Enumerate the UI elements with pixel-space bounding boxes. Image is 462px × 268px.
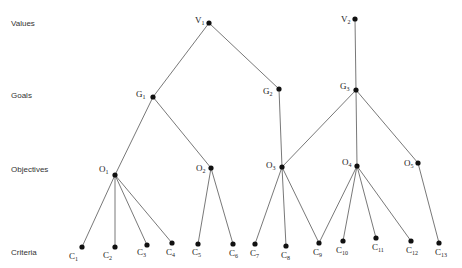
node-label: C11 [372,242,384,253]
node-label: V1 [195,15,205,26]
node-label: C4 [166,247,175,258]
node-label: C9 [313,247,322,258]
node-label: O5 [404,158,414,169]
node-label: O3 [266,160,276,171]
node-o1: O1 [99,164,118,178]
node-c9: C9 [313,240,322,258]
edge-v1-g2 [209,23,279,89]
edge-g1-o1 [115,97,153,175]
node-label: G1 [136,89,146,100]
node-dot-icon [340,238,345,243]
node-dot-icon [352,16,357,21]
edge-o3-c7 [255,167,282,244]
edge-v2-g3 [355,19,356,90]
edge-o3-c8 [282,167,286,246]
edge-o2-c5 [198,168,211,244]
node-dot-icon [112,244,117,249]
node-label: V2 [341,14,351,25]
edge-g3-o5 [356,90,418,163]
node-c2: C2 [103,244,118,261]
node-c10: C10 [336,238,348,256]
node-label: C1 [69,251,78,262]
edge-o2-c6 [211,168,233,244]
node-label: C7 [250,248,259,259]
node-dot-icon [208,165,213,170]
node-dot-icon [354,163,359,168]
node-dot-icon [279,164,284,169]
node-o2: O2 [196,163,214,174]
edge-g2-o3 [279,89,282,167]
level-label-goals: Goals [11,91,32,100]
edge-g3-o3 [282,90,356,167]
node-c7: C7 [250,241,259,259]
level-label-values: Values [11,19,35,28]
node-dot-icon [415,160,420,165]
node-c3: C3 [137,242,150,258]
node-g1: G1 [136,89,156,100]
node-c4: C4 [166,240,175,258]
node-c8: C8 [281,243,290,261]
node-c13: C13 [435,240,447,258]
edge-o4-c11 [357,166,376,238]
level-label-objectives: Objectives [11,165,48,174]
edge-g3-o4 [356,90,357,166]
node-label: G2 [263,86,273,97]
node-dot-icon [150,94,155,99]
edge-o1-c3 [115,175,147,245]
edge-v1-g1 [153,23,209,97]
node-dot-icon [144,242,149,247]
edge-g1-o2 [153,97,211,168]
edge-o4-c12 [357,166,411,241]
node-c1: C1 [69,244,85,262]
edge-o4-c10 [343,166,357,241]
node-label: C5 [192,247,201,258]
hierarchy-diagram: V1V2G1G2G3O1O2O3O4O5C1C2C3C4C5C6C7C8C9C1… [0,0,462,268]
node-label: C2 [103,250,112,261]
node-dot-icon [112,172,117,177]
level-labels-group: ValuesGoalsObjectivesCriteria [11,19,48,257]
node-dot-icon [353,87,358,92]
node-dot-icon [195,241,200,246]
edge-o3-c9 [282,167,319,243]
node-c6: C6 [229,241,238,259]
node-dot-icon [169,240,174,245]
node-c5: C5 [192,241,201,258]
node-dot-icon [79,244,84,249]
nodes-group: V1V2G1G2G3O1O2O3O4O5C1C2C3C4C5C6C7C8C9C1… [69,14,447,262]
node-dot-icon [252,241,257,246]
node-dot-icon [276,86,281,91]
node-label: C12 [406,245,418,256]
node-dot-icon [206,20,211,25]
node-dot-icon [230,241,235,246]
node-o5: O5 [404,158,421,169]
node-v1: V1 [195,15,212,26]
node-label: C6 [229,248,238,259]
node-label: O4 [342,157,352,168]
node-g2: G2 [263,86,282,97]
node-label: C10 [336,245,348,256]
node-label: C13 [435,247,447,258]
node-label: O2 [196,163,206,174]
edge-o1-c1 [82,175,115,247]
node-dot-icon [436,240,441,245]
node-c12: C12 [406,238,418,256]
node-label: G3 [340,81,350,92]
node-dot-icon [373,235,378,240]
node-dot-icon [316,240,321,245]
hierarchy-diagram-svg: V1V2G1G2G3O1O2O3O4O5C1C2C3C4C5C6C7C8C9C1… [0,0,462,268]
edge-o4-c9 [319,166,357,243]
node-label: C3 [137,247,146,258]
node-dot-icon [408,238,413,243]
edges-group [82,19,439,247]
edge-o5-c13 [418,163,439,243]
edge-o1-c4 [115,175,172,243]
node-dot-icon [283,243,288,248]
node-label: C8 [281,250,290,261]
node-label: O1 [99,164,109,175]
level-label-criteria: Criteria [11,248,37,257]
node-c11: C11 [372,235,384,253]
